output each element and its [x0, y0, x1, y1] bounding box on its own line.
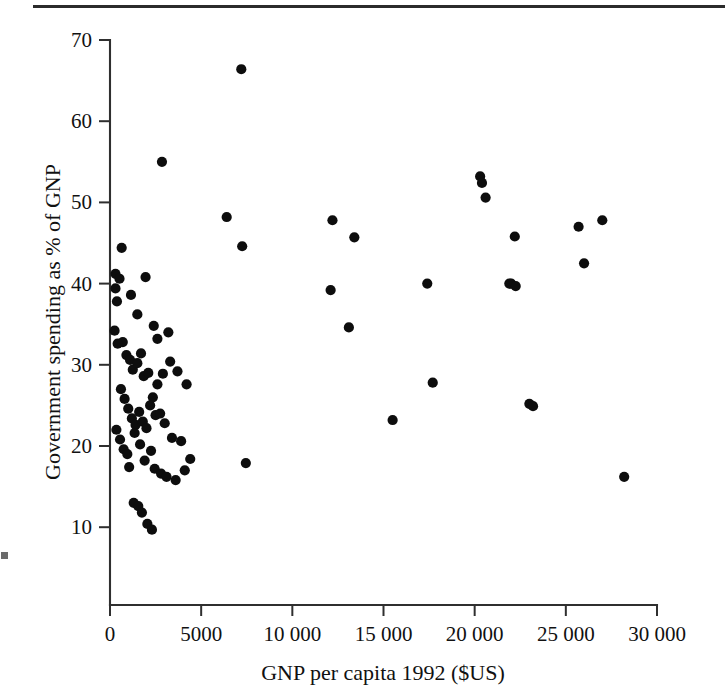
data-point [481, 192, 491, 202]
data-point [134, 407, 144, 417]
data-point [140, 456, 150, 466]
data-point [349, 232, 359, 242]
x-axis-ticks: 0500010 00015 00020 00025 00030 000 [105, 605, 686, 646]
y-tick-label: 40 [71, 272, 92, 296]
data-point [172, 366, 182, 376]
data-point [176, 436, 186, 446]
y-axis-ticks: 10203040506070 [71, 28, 110, 539]
y-tick-label: 20 [71, 434, 92, 458]
data-point [149, 321, 159, 331]
data-point [597, 215, 607, 225]
data-point [422, 279, 432, 289]
data-point [152, 334, 162, 344]
x-tick-label: 15 000 [355, 622, 413, 646]
data-point [124, 462, 134, 472]
data-point [110, 283, 120, 293]
data-point [112, 296, 122, 306]
data-point [115, 434, 125, 444]
x-tick-label: 10 000 [263, 622, 321, 646]
x-tick-label: 5000 [180, 622, 222, 646]
data-point [344, 322, 354, 332]
data-point [185, 454, 195, 464]
x-tick-label: 25 000 [537, 622, 595, 646]
data-point [163, 327, 173, 337]
data-point [147, 525, 157, 535]
data-point [130, 428, 140, 438]
data-point [119, 394, 129, 404]
data-point [143, 368, 153, 378]
data-point [167, 433, 177, 443]
data-point [428, 378, 438, 388]
x-tick-label: 20 000 [446, 622, 504, 646]
data-point [109, 326, 119, 336]
data-point [135, 439, 145, 449]
data-point [111, 425, 121, 435]
data-point [160, 418, 170, 428]
data-point [126, 290, 136, 300]
data-point [146, 446, 156, 456]
data-point [140, 272, 150, 282]
y-tick-label: 70 [71, 28, 92, 52]
data-point [141, 423, 151, 433]
data-point [158, 369, 168, 379]
data-point [132, 309, 142, 319]
y-tick-label: 30 [71, 353, 92, 377]
y-tick-label: 10 [71, 515, 92, 539]
y-axis-title: Government spending as % of GNP [40, 164, 65, 480]
data-point [181, 379, 191, 389]
y-tick-label: 50 [71, 190, 92, 214]
x-tick-label: 0 [105, 622, 116, 646]
data-point [137, 507, 147, 517]
data-point [116, 384, 126, 394]
axes-group [110, 40, 657, 605]
data-point [157, 157, 167, 167]
figure-container: 10203040506070 0500010 00015 00020 00025… [0, 0, 725, 700]
y-tick-label: 60 [71, 109, 92, 133]
data-point [528, 401, 538, 411]
data-point [511, 281, 521, 291]
scatter-plot: 10203040506070 0500010 00015 00020 00025… [0, 0, 725, 700]
data-point [241, 458, 251, 468]
data-point [579, 258, 589, 268]
data-point [113, 339, 123, 349]
data-point [326, 285, 336, 295]
data-point [619, 472, 629, 482]
data-point [388, 415, 398, 425]
data-point [165, 356, 175, 366]
data-point [222, 212, 232, 222]
data-point [574, 222, 584, 232]
data-points-group [109, 64, 629, 535]
data-point [477, 178, 487, 188]
data-point [145, 400, 155, 410]
data-point [132, 358, 142, 368]
data-point [161, 472, 171, 482]
data-point [171, 475, 181, 485]
data-point [155, 408, 165, 418]
x-tick-label: 30 000 [628, 622, 686, 646]
x-axis-title: GNP per capita 1992 ($US) [261, 660, 505, 685]
data-point [180, 465, 190, 475]
data-point [114, 274, 124, 284]
data-point [152, 379, 162, 389]
data-point [327, 215, 337, 225]
data-point [510, 231, 520, 241]
data-point [122, 449, 132, 459]
data-point [136, 348, 146, 358]
data-point [117, 243, 127, 253]
data-point [236, 64, 246, 74]
data-point [237, 241, 247, 251]
data-point [123, 404, 133, 414]
